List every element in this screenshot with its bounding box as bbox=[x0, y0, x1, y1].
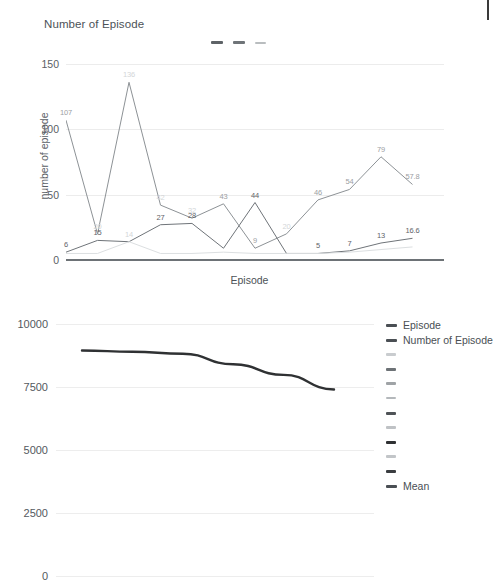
chart1-y-tick-label: 50 bbox=[47, 189, 59, 201]
legend-dash-icon bbox=[386, 353, 396, 356]
chart1-point-label: 9 bbox=[253, 236, 257, 245]
chart1-x-axis-title: Episode bbox=[0, 274, 499, 286]
legend-dash-icon bbox=[386, 426, 396, 429]
chart2-legend-item[interactable] bbox=[386, 347, 499, 362]
chart2-legend-item[interactable] bbox=[386, 464, 499, 479]
chart1-point-label: 7 bbox=[347, 239, 351, 248]
chart1-point-label: 136 bbox=[123, 70, 135, 79]
chart2-y-tick-label: 5000 bbox=[24, 444, 48, 456]
chart1-legend-dash-1[interactable] bbox=[211, 41, 223, 44]
legend-dash-icon bbox=[386, 455, 396, 458]
chart1-title: Number of Episode bbox=[44, 18, 144, 30]
page-root: Number of Episode number of episode 0501… bbox=[0, 0, 499, 581]
chart2-legend-item[interactable] bbox=[386, 449, 499, 464]
legend-dash-icon bbox=[386, 324, 397, 327]
chart2-legend-item[interactable]: Episode bbox=[386, 318, 499, 333]
chart1-point-label: 6 bbox=[64, 240, 68, 249]
chart2-line-mean bbox=[82, 350, 334, 389]
legend-dash-icon bbox=[386, 397, 396, 400]
chart2-legend-item[interactable]: Number of Episode bbox=[386, 333, 499, 348]
chart1-point-label: 107 bbox=[60, 108, 72, 117]
chart1-point-label: 42 bbox=[156, 193, 164, 202]
chart1-y-tick-label: 100 bbox=[41, 123, 59, 135]
legend-dash-icon bbox=[386, 441, 396, 444]
legend-dash-icon bbox=[386, 470, 396, 473]
chart2-y-tick-label: 0 bbox=[42, 570, 48, 581]
chart2-series-lines bbox=[56, 324, 374, 576]
chart1-point-label: 46 bbox=[314, 188, 322, 197]
legend-dash-icon bbox=[386, 368, 396, 371]
chart1-point-label: 27 bbox=[156, 213, 164, 222]
chart2-legend-item[interactable] bbox=[386, 376, 499, 391]
chart1-point-label: 54 bbox=[345, 177, 353, 186]
chart1-point-label: 16.6 bbox=[405, 226, 419, 235]
chart1-point-label: 15 bbox=[93, 228, 101, 237]
legend-dash-icon bbox=[386, 412, 396, 415]
chart1-point-label: 28 bbox=[188, 211, 196, 220]
chart2-y-tick-label: 2500 bbox=[24, 507, 48, 519]
chart-number-of-episode: Number of Episode number of episode 0501… bbox=[0, 0, 499, 293]
chart2-legend-item[interactable] bbox=[386, 406, 499, 421]
legend-dash-icon bbox=[386, 485, 397, 488]
chart1-point-label: 5 bbox=[316, 241, 320, 250]
chart2-legend-label: Mean bbox=[403, 479, 429, 493]
chart1-point-label: 20 bbox=[282, 222, 290, 231]
chart1-plot-area: 050100150 107136201561442273228439442046… bbox=[66, 64, 444, 260]
chart2-legend-item[interactable] bbox=[386, 362, 499, 377]
chart2-y-tick-label: 10000 bbox=[17, 318, 48, 330]
chart2-legend-label: Episode bbox=[403, 318, 441, 332]
chart2-legend-label: Number of Episode bbox=[403, 333, 493, 347]
chart1-point-label: 57.8 bbox=[405, 172, 419, 181]
chart2-legend-item[interactable] bbox=[386, 435, 499, 450]
chart1-legend-dash-2[interactable] bbox=[233, 41, 245, 44]
chart1-line-series-3 bbox=[66, 242, 413, 254]
chart2-gridline bbox=[56, 576, 374, 577]
chart1-legend-dash-3[interactable] bbox=[255, 42, 266, 44]
legend-dash-icon bbox=[386, 382, 396, 385]
chart1-legend bbox=[211, 38, 271, 48]
chart-mean-trend: 025005000750010000 EpisodeNumber of Epis… bbox=[0, 300, 499, 581]
chart2-legend-item[interactable] bbox=[386, 420, 499, 435]
legend-dash-icon bbox=[386, 339, 397, 342]
chart1-point-label: 44 bbox=[251, 191, 259, 200]
chart1-y-tick-label: 0 bbox=[53, 254, 59, 266]
chart2-legend: EpisodeNumber of EpisodeMean bbox=[386, 318, 499, 493]
chart2-plot-area: 025005000750010000 bbox=[56, 324, 374, 576]
chart2-y-tick-label: 7500 bbox=[24, 381, 48, 393]
chart1-point-label: 13 bbox=[377, 231, 385, 240]
chart1-series-lines bbox=[66, 64, 444, 260]
chart2-legend-item[interactable]: Mean bbox=[386, 479, 499, 494]
chart1-point-label: 14 bbox=[125, 230, 133, 239]
chart1-y-tick-label: 150 bbox=[41, 58, 59, 70]
chart1-x-axis-line bbox=[66, 259, 444, 261]
chart1-line-series-1 bbox=[66, 82, 413, 248]
chart1-point-label: 79 bbox=[377, 145, 385, 154]
chart2-legend-item[interactable] bbox=[386, 391, 499, 406]
chart1-point-label: 43 bbox=[219, 192, 227, 201]
